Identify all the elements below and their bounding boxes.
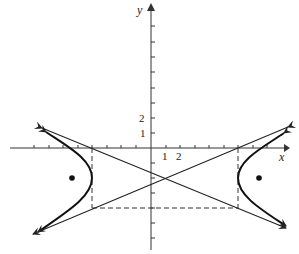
hyperbola-branches bbox=[38, 132, 286, 232]
y-ticks bbox=[151, 26, 155, 238]
x-axis-label: x bbox=[278, 150, 285, 164]
x-tick-label-2: 2 bbox=[176, 150, 182, 162]
x-axis-arrow-icon bbox=[284, 144, 290, 152]
focus-right-point bbox=[256, 175, 262, 181]
right-branch bbox=[238, 133, 286, 226]
y-axis: y 2 1 bbox=[136, 3, 155, 250]
hyperbola-figure: x 1 2 y 2 1 bbox=[0, 0, 299, 254]
y-axis-arrow-icon bbox=[147, 3, 155, 11]
y-tick-label-2: 2 bbox=[139, 112, 145, 124]
x-tick-label-1: 1 bbox=[162, 150, 168, 162]
focus-left-point bbox=[69, 175, 75, 181]
y-tick-label-1: 1 bbox=[140, 127, 146, 139]
left-branch bbox=[38, 132, 92, 232]
y-axis-label: y bbox=[136, 3, 143, 17]
x-axis: x 1 2 bbox=[10, 144, 290, 164]
